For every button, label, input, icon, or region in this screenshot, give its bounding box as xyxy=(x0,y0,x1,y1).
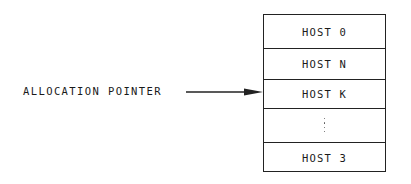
stack-cell-host-0: HOST 0 xyxy=(264,15,385,49)
cell-label: HOST 0 xyxy=(302,26,347,38)
cell-label: HOST N xyxy=(302,58,347,70)
allocation-pointer-label: ALLOCATION POINTER xyxy=(23,85,162,97)
stack-cell-ellipsis xyxy=(264,108,385,143)
host-allocation-stack: HOST 0 HOST N HOST K HOST 3 xyxy=(263,14,386,172)
pointer-arrow-icon xyxy=(186,86,266,98)
stack-cell-host-3: HOST 3 xyxy=(264,142,385,173)
stack-cell-host-n: HOST N xyxy=(264,48,385,80)
cell-label: HOST K xyxy=(302,88,347,100)
vertical-ellipsis-icon xyxy=(324,118,325,132)
stack-cell-host-k: HOST K xyxy=(264,79,385,109)
cell-label: HOST 3 xyxy=(302,152,347,164)
